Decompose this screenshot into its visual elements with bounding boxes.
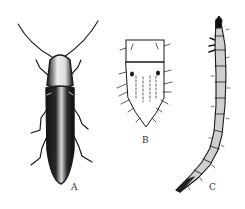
beetle-leg [73, 134, 92, 162]
wireworm-larva [176, 16, 230, 192]
figure-illustration [0, 0, 245, 209]
beetle-antenna-left [18, 24, 52, 57]
panel-label-c: C [209, 183, 216, 192]
panel-label-b: B [142, 136, 149, 145]
beetle-elytra [46, 86, 74, 184]
larva-tail [176, 177, 194, 192]
beetle-leg [31, 134, 48, 165]
larva-terminal-segment [117, 40, 172, 127]
larva-body [176, 20, 226, 192]
beetle-antenna-right [64, 21, 98, 57]
beetle-pronotum [47, 55, 73, 89]
segment-upper [126, 40, 164, 62]
panel-label-a: A [71, 183, 78, 192]
beetle-leg [31, 108, 48, 133]
beetle-leg [36, 60, 49, 76]
beetle-adult [18, 21, 98, 184]
larva-head [216, 16, 222, 28]
